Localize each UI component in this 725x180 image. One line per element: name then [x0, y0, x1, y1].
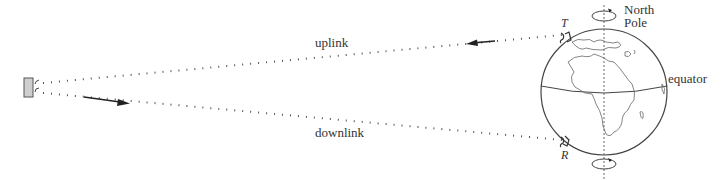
uplink-arrow-icon — [466, 40, 478, 47]
north-pole-label-line2: Pole — [624, 16, 647, 30]
uplink-beam — [43, 35, 562, 83]
rotation-south-icon — [592, 158, 616, 169]
satellite — [24, 78, 39, 97]
equator-label: equator — [668, 72, 707, 86]
receiver-label: R — [561, 148, 568, 162]
earth-globe — [541, 5, 667, 180]
transmitter-label: T — [561, 16, 568, 30]
downlink-label: downlink — [315, 126, 364, 140]
downlink-beam — [43, 93, 562, 140]
uplink-label: uplink — [315, 36, 348, 50]
satellite-link-diagram — [0, 0, 725, 180]
